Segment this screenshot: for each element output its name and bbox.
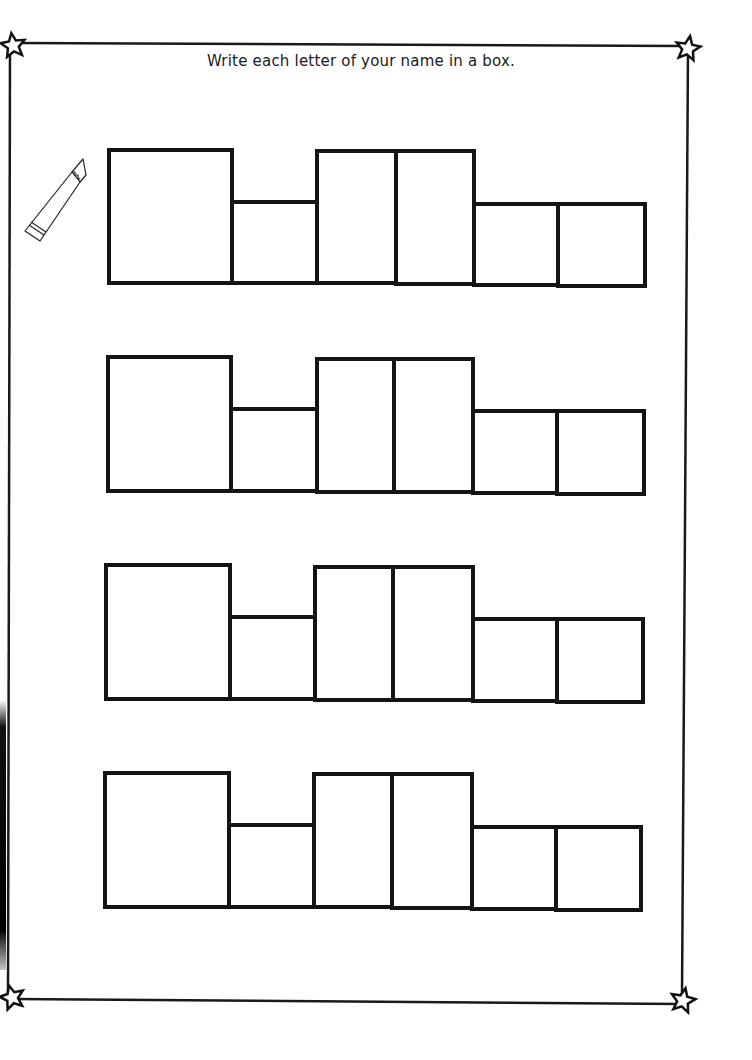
letter-box-tall[interactable] [390,772,474,910]
letter-box-short[interactable] [230,200,319,285]
letter-box-short[interactable] [228,615,317,701]
letter-box-short[interactable] [556,202,647,288]
star-icon [669,986,697,1013]
letter-box-short[interactable] [229,407,319,493]
letter-box-short[interactable] [555,409,646,496]
letter-box-short[interactable] [470,825,558,911]
letter-box-tall[interactable] [107,148,234,285]
letter-box-short[interactable] [471,409,559,495]
letter-box-short[interactable] [472,202,560,287]
letter-box-tall[interactable] [313,565,395,702]
pencil-icon [20,155,90,247]
letter-box-short[interactable] [555,617,645,704]
letter-box-short[interactable] [227,823,316,909]
instruction-heading: Write each letter of your name in a box. [0,52,722,70]
letter-box-tall[interactable] [394,149,476,286]
letter-box-tall[interactable] [104,563,232,701]
star-icon [0,982,26,1010]
letter-box-tall[interactable] [315,357,396,494]
letter-box-tall[interactable] [103,771,231,909]
letter-box-tall[interactable] [312,772,394,909]
letter-box-short[interactable] [554,825,643,912]
letter-box-tall[interactable] [315,149,398,285]
letter-box-tall[interactable] [391,565,475,702]
letter-box-short[interactable] [471,617,559,703]
letter-box-tall[interactable] [392,357,475,494]
letter-box-tall[interactable] [106,355,233,493]
